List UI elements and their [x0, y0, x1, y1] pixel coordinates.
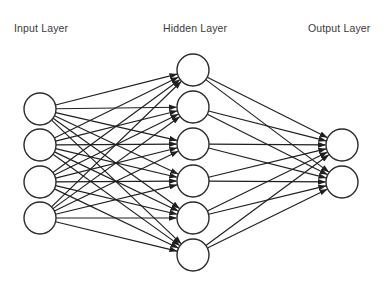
neuron-node-h6	[177, 239, 209, 271]
connection-h6-to-o1	[206, 155, 329, 246]
output-layer-label: Output Layer	[308, 22, 371, 34]
neuron-node-h5	[177, 202, 209, 234]
connection-h1-to-o1	[207, 77, 327, 137]
neuron-node-o2	[326, 166, 358, 198]
connection-i1-to-h1	[56, 74, 178, 105]
neuron-node-i3	[24, 166, 56, 198]
connection-i4-to-h6	[56, 222, 177, 251]
connection-h6-to-o2	[207, 189, 327, 248]
edges-hidden-to-output	[206, 77, 329, 248]
neuron-node-h3	[177, 128, 209, 160]
input-layer-nodes	[24, 93, 56, 234]
output-layer-nodes	[326, 129, 358, 198]
connection-h2-to-o1	[209, 111, 327, 141]
hidden-layer-nodes	[177, 54, 209, 271]
neuron-node-i2	[24, 129, 56, 161]
hidden-layer-label: Hidden Layer	[163, 22, 228, 34]
connection-h3-to-o1	[209, 144, 326, 145]
neuron-node-h2	[177, 91, 209, 123]
connection-i3-to-h1	[53, 80, 180, 173]
neural-network-diagram: Input Layer Hidden Layer Output Layer	[0, 0, 392, 289]
neuron-node-h4	[177, 165, 209, 197]
input-layer-label: Input Layer	[14, 22, 69, 34]
neuron-node-i4	[24, 202, 56, 234]
neuron-node-i1	[24, 93, 56, 125]
network-canvas: Input Layer Hidden Layer Output Layer	[0, 0, 392, 289]
edges-input-to-hidden	[52, 74, 182, 251]
neuron-node-h1	[177, 54, 209, 86]
neuron-node-o1	[326, 129, 358, 161]
